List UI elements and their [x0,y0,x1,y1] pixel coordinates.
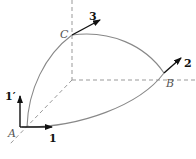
curve-A-B [22,73,164,127]
vector-label-3: 3 [89,10,97,23]
vector-label-1: 1 [49,132,57,145]
curve-A-C [27,35,72,127]
point-label-B: B [165,77,174,90]
vector-2-arrow [164,58,181,73]
vectors [20,20,181,127]
point-label-A: A [7,127,16,140]
vector-label-1prime: 1′ [5,90,16,103]
curved-edges [22,34,164,127]
curved-triangle-diagram: A B C 1 1′ 2 3 [0,0,196,159]
vector-label-2: 2 [184,57,192,70]
point-label-C: C [60,28,69,41]
curve-C-B [72,34,164,73]
dashed-axes [10,0,196,144]
